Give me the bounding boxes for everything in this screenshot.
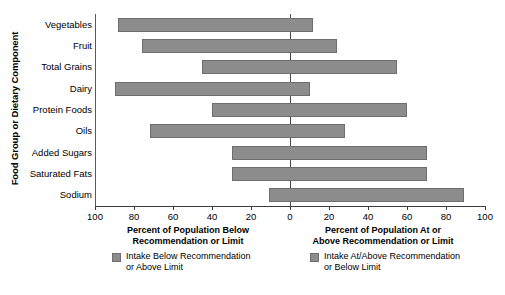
x-axis-tick [251, 206, 252, 210]
x-axis-tick [95, 206, 96, 210]
x-axis-tick-label: 80 [114, 211, 154, 222]
category-label: Protein Foods [8, 105, 92, 115]
chart-legend: Intake Below Recommendation or Above Lim… [95, 252, 495, 282]
category-label: Dairy [8, 84, 92, 94]
legend-label-line2: or Above Limit [126, 262, 183, 272]
x-axis-tick-label: 20 [309, 211, 349, 222]
x-axis-tick-label: 100 [465, 211, 505, 222]
category-label: Vegetables [8, 20, 92, 30]
x-axis-tick [485, 206, 486, 210]
bar [232, 146, 427, 160]
bar [142, 39, 337, 53]
bar [202, 60, 397, 74]
bar [150, 124, 345, 138]
x-axis-tick [290, 206, 291, 210]
category-label: Oils [8, 126, 92, 136]
legend-label-line2: or Below Limit [324, 262, 381, 272]
legend-swatch-icon [310, 253, 319, 262]
plot-area [95, 14, 485, 206]
plot-left-border [95, 14, 96, 206]
category-label: Added Sugars [8, 148, 92, 158]
chart-figure: Food Group or Dietary Component Vegetabl… [0, 0, 505, 295]
x-axis-caption-left-line2: Recommendation or Limit [132, 236, 243, 246]
legend-label: Intake Below Recommendation or Above Lim… [126, 251, 306, 272]
legend-label-line1: Intake At/Above Recommendation [324, 251, 460, 261]
x-axis-tick-label: 60 [153, 211, 193, 222]
x-axis-caption-right-line2: Above Recommendation or Limit [312, 236, 453, 246]
x-axis-tick [173, 206, 174, 210]
bar [212, 103, 407, 117]
x-axis-tick [134, 206, 135, 210]
x-axis-caption-left: Percent of Population Below Recommendati… [93, 225, 283, 247]
category-label: Total Grains [8, 62, 92, 72]
category-label: Fruit [8, 41, 92, 51]
legend-label-line1: Intake Below Recommendation [126, 251, 251, 261]
category-label: Sodium [8, 190, 92, 200]
x-axis-caption-right-line1: Percent of Population At or [325, 225, 441, 235]
x-axis-tick-label: 40 [192, 211, 232, 222]
x-axis-tick-label: 80 [426, 211, 466, 222]
category-label: Saturated Fats [8, 169, 92, 179]
legend-swatch-icon [112, 253, 121, 262]
bar [118, 18, 313, 32]
x-axis-tick-label: 40 [348, 211, 388, 222]
x-axis-tick [329, 206, 330, 210]
x-axis-tick [407, 206, 408, 210]
x-axis-tick-label: 0 [270, 211, 310, 222]
bar [115, 82, 310, 96]
x-axis-tick [368, 206, 369, 210]
bar [232, 167, 427, 181]
x-axis-tick-label: 60 [387, 211, 427, 222]
x-axis-caption-left-line1: Percent of Population Below [127, 225, 249, 235]
x-axis-caption-right: Percent of Population At or Above Recomm… [288, 225, 478, 247]
x-axis-tick-label: 100 [75, 211, 115, 222]
x-axis-tick [446, 206, 447, 210]
x-axis-tick-label: 20 [231, 211, 271, 222]
x-axis-tick [212, 206, 213, 210]
bar [269, 188, 464, 202]
legend-label: Intake At/Above Recommendation or Below … [324, 251, 504, 272]
category-label-list: VegetablesFruitTotal GrainsDairyProtein … [8, 14, 92, 206]
